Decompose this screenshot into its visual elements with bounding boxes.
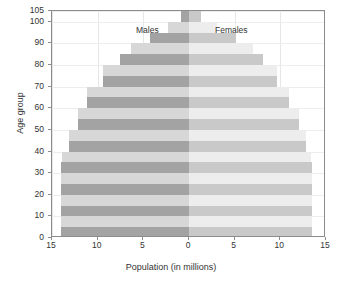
y-tick-label: 40 [4, 146, 44, 156]
bar-female [189, 152, 311, 163]
bar-male [87, 87, 189, 98]
x-tick-mark [234, 237, 235, 240]
y-tick-label: 20 [4, 189, 44, 199]
x-tick-mark [188, 237, 189, 240]
annotation-males: Males [136, 25, 159, 35]
bar-male [61, 184, 189, 195]
bar-male [61, 206, 189, 217]
x-tick-mark [97, 237, 98, 240]
bar-male [103, 76, 189, 87]
bar-female [189, 11, 201, 22]
bar-male [181, 11, 189, 22]
bar-female [189, 195, 312, 206]
x-axis-title: Population (in millions) [0, 262, 342, 272]
bar-male [61, 162, 189, 173]
bar-male [61, 173, 189, 184]
bar-female [189, 173, 312, 184]
bar-female [189, 108, 299, 119]
x-tick-label: 0 [168, 240, 208, 250]
y-tick-label: 105 [4, 5, 44, 15]
bar-female [189, 216, 312, 227]
plot-area: Males Females [51, 10, 325, 237]
bar-female [189, 54, 263, 65]
x-tick-label: 15 [305, 240, 342, 250]
x-tick-mark [142, 237, 143, 240]
annotation-females: Females [215, 25, 248, 35]
bar-female [189, 87, 289, 98]
bar-male [131, 43, 189, 54]
bar-male [78, 108, 189, 119]
bar-female [189, 22, 217, 33]
bar-male [61, 216, 189, 227]
x-tick-label: 5 [214, 240, 254, 250]
bar-male [87, 97, 189, 108]
bar-male [62, 152, 189, 163]
x-tick-mark [279, 237, 280, 240]
bar-female [189, 65, 277, 76]
bar-female [189, 119, 299, 130]
bar-male [103, 65, 189, 76]
bars-layer [52, 11, 324, 236]
y-tick-label: 80 [4, 59, 44, 69]
bar-female [189, 43, 253, 54]
x-tick-mark [325, 237, 326, 240]
bar-male [61, 195, 189, 206]
x-tick-mark [51, 237, 52, 240]
y-tick-label: 100 [4, 16, 44, 26]
bar-female [189, 141, 306, 152]
bar-male [69, 141, 189, 152]
y-tick-label: 10 [4, 210, 44, 220]
bar-male [69, 130, 189, 141]
bar-male [78, 119, 189, 130]
y-tick-label: 60 [4, 102, 44, 112]
bar-female [189, 97, 289, 108]
bar-female [189, 130, 306, 141]
x-tick-label: 15 [31, 240, 71, 250]
y-tick-label: 70 [4, 81, 44, 91]
bar-female [189, 227, 312, 236]
y-tick-label: 30 [4, 167, 44, 177]
y-tick-label: 90 [4, 37, 44, 47]
y-tick-label: 50 [4, 124, 44, 134]
x-tick-label: 5 [122, 240, 162, 250]
bar-male [61, 227, 189, 236]
bar-female [189, 206, 312, 217]
x-tick-label: 10 [77, 240, 117, 250]
bar-female [189, 184, 312, 195]
population-pyramid-figure: Age group Population (in millions) 01020… [0, 0, 342, 282]
bar-female [189, 76, 277, 87]
bar-male [120, 54, 189, 65]
figure-caption [6, 272, 206, 280]
x-tick-label: 10 [259, 240, 299, 250]
bar-male [168, 22, 189, 33]
bar-female [189, 162, 312, 173]
